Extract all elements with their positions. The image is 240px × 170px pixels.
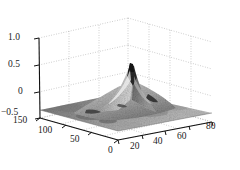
y-ticklabel-100: 100 [38,126,52,136]
z-ticklabel-1: 1.0 [8,33,20,43]
x-ticklabel-20: 20 [130,142,140,152]
plot-canvas [0,0,240,170]
z-ticklabel-2: 0.5 [8,60,20,70]
z-ticklabel-3: 0 [18,87,23,97]
x-ticklabel-80: 80 [206,122,216,132]
surface-plot-figure: 1.0 0.5 0 −0.5 150 100 50 0 20 40 60 80 [0,0,240,170]
surface-mesh [40,63,212,131]
z-axis-line [39,38,40,118]
y-ticklabel-150: 150 [13,116,27,126]
surface-peak-apex [128,63,134,72]
x-ticklabel-0: 0 [108,146,113,156]
x-ticklabel-40: 40 [153,137,163,147]
y-ticklabel-50: 50 [70,135,80,145]
x-ticklabel-60: 60 [177,132,187,142]
